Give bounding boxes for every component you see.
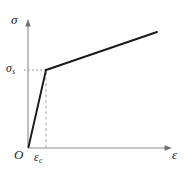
elastic-branch [29, 70, 47, 147]
figure-canvas [0, 0, 189, 174]
hardening-branch [46, 32, 157, 70]
stress-strain-figure: σ ε O σs εc [0, 0, 189, 174]
yield-stress-subscript: s [12, 67, 15, 76]
x-axis-label: ε [172, 148, 177, 161]
x-axis-arrowhead [165, 145, 173, 150]
yield-strain-tick-label: εc [34, 151, 42, 163]
origin-label: O [14, 148, 23, 161]
yield-strain-subscript: c [39, 156, 42, 165]
y-axis-arrowhead [25, 19, 30, 27]
yield-stress-tick-label: σs [6, 62, 15, 74]
y-axis-label: σ [11, 13, 17, 26]
